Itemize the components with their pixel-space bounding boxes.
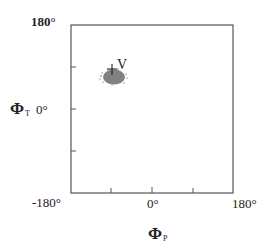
plot-frame [71,25,233,193]
y-tick-label-mid: 0° [36,103,48,116]
x-axis-title: ΦP [148,225,168,243]
y-tick-label-bottom: -180° [32,196,61,209]
x-axis-subscript: P [163,234,167,243]
x-tick-label-mid: 0° [147,197,159,210]
y-axis-subscript: T [25,109,30,118]
plot-area [0,0,273,252]
x-tick-label-right: 180° [232,197,257,210]
annotation-label: V [117,58,127,72]
y-axis-symbol: Φ [10,99,24,118]
x-axis-ticks [111,187,193,193]
y-tick-label-top: 180° [31,15,56,28]
x-axis-symbol: Φ [148,224,162,243]
y-axis-title: ΦT [10,100,30,118]
y-axis-ticks [71,67,76,151]
